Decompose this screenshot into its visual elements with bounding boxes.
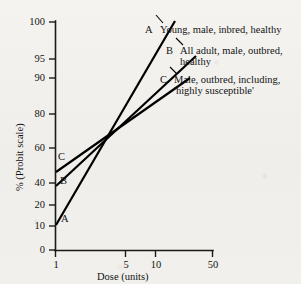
plot-marker-b: B <box>60 175 67 186</box>
legend-key-b: B <box>166 45 173 56</box>
legend-key-c: C <box>160 74 167 85</box>
series-line-a <box>56 21 175 225</box>
legend-label-a: Young, male, inbred, healthy <box>160 24 281 35</box>
leader-a <box>156 15 163 23</box>
y-tick-label-0: 0 <box>17 244 45 255</box>
plot-marker-c: C <box>58 151 65 162</box>
y-tick-label-10: 10 <box>17 220 45 231</box>
x-axis-title: Dose (units) <box>97 271 149 282</box>
y-axis-ticks <box>49 22 55 250</box>
legend-label-b: All adult, male, outbred, <box>180 45 283 56</box>
legend-label-c: Male, outbred, including, <box>174 74 280 85</box>
legend-key-a: A <box>145 24 153 35</box>
plot-marker-a: A <box>61 213 69 224</box>
y-tick-label-95: 95 <box>17 53 45 64</box>
x-tick-label-5: 5 <box>115 259 137 270</box>
x-tick-label-10: 10 <box>145 259 167 270</box>
legend-label-b-line2: healthy <box>180 56 211 67</box>
chart-canvas <box>0 0 301 284</box>
data-series-group <box>56 21 196 225</box>
y-tick-label-80: 80 <box>17 108 45 119</box>
leader-c <box>170 67 177 74</box>
y-tick-label-90: 90 <box>17 72 45 83</box>
x-tick-label-50: 50 <box>202 259 224 270</box>
y-tick-label-100: 100 <box>17 16 45 27</box>
y-tick-label-20: 20 <box>17 199 45 210</box>
y-axis-title: % (Probit scale) <box>14 123 25 191</box>
leader-b <box>176 38 183 45</box>
series-line-c <box>56 78 190 172</box>
probit-dose-response-chart: 100 95 90 80 60 40 20 10 0 1 5 10 50 Dos… <box>0 0 301 284</box>
x-tick-label-1: 1 <box>45 259 67 270</box>
legend-label-c-line2: 'highly susceptible' <box>174 85 254 96</box>
